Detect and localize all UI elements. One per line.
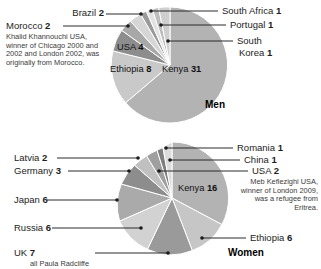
- callout-south-korea-label1: South: [237, 35, 262, 46]
- callout-romania-value: 1: [278, 142, 283, 153]
- leader-dot-usa-w: [157, 169, 161, 173]
- callout-south-africa-value: 1: [276, 5, 281, 16]
- men-title: Men: [205, 99, 225, 110]
- callout-russia-value: 6: [46, 222, 51, 233]
- leader-dot-latvia: [136, 156, 140, 160]
- slice-label-ethiopia-men-value: 8: [146, 64, 151, 74]
- callout-portugal-label: Portugal: [230, 19, 268, 30]
- callout-germany[interactable]: Germany 3: [14, 166, 61, 177]
- usa-women-annotation: Meb Keflezighi USA, winner of London 200…: [232, 178, 318, 212]
- morocco-annotation: Khalid Khannouchi USA, winner of Chicago…: [6, 33, 110, 67]
- leader-dot-south-africa: [149, 9, 153, 13]
- callout-south-korea-label2: Korea: [239, 47, 267, 58]
- callout-romania-label: Romania: [237, 142, 278, 153]
- callout-south-korea-line2[interactable]: Korea 1: [239, 48, 272, 59]
- leader-dot-ethiopia-w: [200, 236, 204, 240]
- callout-ethiopia-women-value: 6: [287, 232, 292, 243]
- slice-label-usa-men: USA 4: [117, 42, 143, 52]
- callout-latvia[interactable]: Latvia 2: [14, 153, 47, 164]
- callout-usa-women-value: 2: [274, 165, 279, 176]
- slice-label-kenya-women-name: Kenya: [178, 183, 207, 193]
- slice-label-usa-men-value: 4: [138, 42, 143, 52]
- slice-label-ethiopia-men-name: Ethiopia: [110, 64, 146, 74]
- leader-dot-portugal: [159, 23, 163, 27]
- callout-romania[interactable]: Romania 1: [237, 143, 283, 154]
- leader-dot-japan: [115, 198, 119, 202]
- callout-ethiopia-women-label: Ethiopia: [250, 232, 287, 243]
- callout-portugal[interactable]: Portugal 1: [230, 20, 273, 31]
- callout-china-label: China: [244, 154, 271, 165]
- callout-brazil-label: Brazil: [72, 7, 98, 18]
- callout-portugal-value: 1: [268, 19, 273, 30]
- callout-japan-value: 6: [43, 194, 48, 205]
- callout-germany-value: 3: [56, 165, 61, 176]
- callout-latvia-value: 2: [42, 152, 47, 163]
- callout-japan[interactable]: Japan 6: [14, 195, 48, 206]
- callout-brazil-value: 2: [99, 7, 104, 18]
- callout-south-africa-label: South Africa: [222, 5, 276, 16]
- callout-china[interactable]: China 1: [244, 155, 277, 166]
- slice-label-usa-men-name: USA: [117, 42, 138, 52]
- leader-dot-romania: [164, 146, 168, 150]
- slice-label-kenya-men-value: 31: [191, 64, 201, 74]
- slice-label-kenya-men-name: Kenya: [162, 64, 191, 74]
- callout-usa-women[interactable]: USA 2: [252, 166, 279, 177]
- callout-latvia-label: Latvia: [14, 152, 42, 163]
- callout-south-korea-value: 1: [267, 47, 272, 58]
- figure-canvas: South Africa 1 Portugal 1 South Korea 1 …: [0, 0, 321, 269]
- leader-dot-china: [168, 158, 172, 162]
- callout-japan-label: Japan: [14, 194, 43, 205]
- callout-south-africa[interactable]: South Africa 1: [222, 6, 281, 17]
- leader-dot-morocco: [126, 24, 130, 28]
- women-title: Women: [228, 247, 264, 258]
- slice-label-kenya-women-value: 16: [207, 183, 217, 193]
- callout-uk[interactable]: UK 7: [14, 248, 35, 259]
- leader-dot-south-korea: [166, 39, 170, 43]
- leader-dot-germany: [127, 169, 131, 173]
- leader-dot-brazil: [139, 12, 143, 16]
- callout-russia-label: Russia: [14, 222, 46, 233]
- slice-label-kenya-men: Kenya 31: [162, 64, 201, 74]
- callout-morocco-value: 2: [45, 20, 50, 31]
- callout-south-korea-line1[interactable]: South: [237, 36, 262, 47]
- callout-ethiopia-women[interactable]: Ethiopia 6: [250, 233, 292, 244]
- callout-usa-women-label: USA: [252, 165, 274, 176]
- callout-morocco[interactable]: Morocco 2: [6, 21, 50, 32]
- leader-dot-uk: [166, 251, 170, 255]
- callout-brazil[interactable]: Brazil 2: [62, 8, 104, 19]
- leader-dot-russia: [139, 226, 143, 230]
- callout-germany-label: Germany: [14, 165, 56, 176]
- callout-morocco-label: Morocco: [6, 20, 45, 31]
- callout-russia[interactable]: Russia 6: [14, 223, 51, 234]
- callout-uk-label: UK: [14, 247, 30, 258]
- callout-china-value: 1: [271, 154, 276, 165]
- callout-uk-value: 7: [30, 247, 35, 258]
- slice-label-ethiopia-men: Ethiopia 8: [110, 64, 151, 74]
- uk-subnote: all Paula Radcliffe: [30, 259, 89, 268]
- slice-label-kenya-women: Kenya 16: [178, 183, 217, 193]
